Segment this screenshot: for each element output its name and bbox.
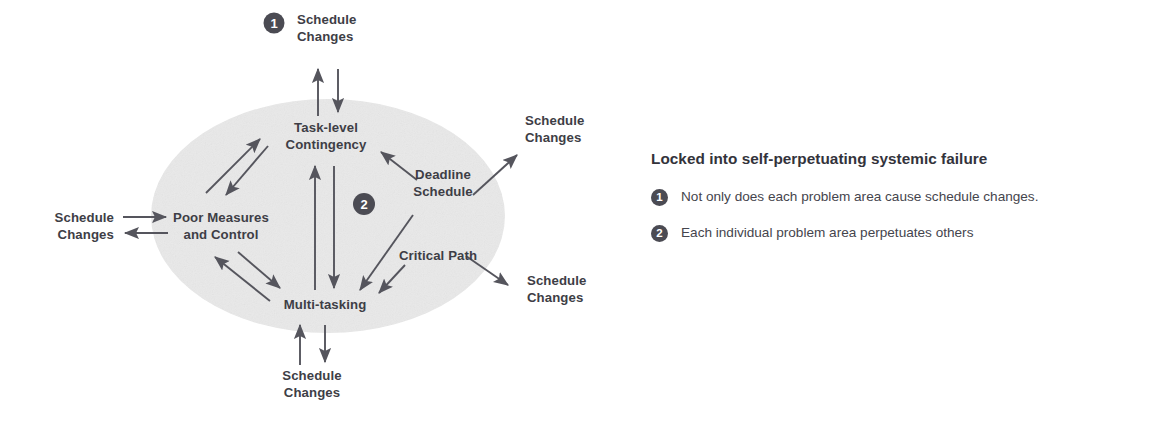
- node-critical-path-line1: Critical Path: [399, 248, 477, 263]
- legend-bullet-2-icon: 2: [651, 225, 668, 242]
- badge-one: 1: [264, 13, 285, 34]
- node-deadline-schedule-line2: Schedule: [413, 184, 472, 199]
- legend-item-1-text: Not only does each problem area cause sc…: [681, 188, 1131, 206]
- schedule-changes-bottom-right: Schedule Changes: [527, 273, 586, 305]
- schedule-changes-top-right: Schedule Changes: [525, 113, 584, 145]
- schedule-changes-bottom-right-line2: Changes: [527, 290, 583, 305]
- schedule-changes-bottom-right-line1: Schedule: [527, 273, 586, 288]
- legend-item-2-text: Each individual problem area perpetuates…: [681, 224, 1131, 242]
- legend-item-1: 1 Not only does each problem area cause …: [651, 188, 1131, 206]
- node-critical-path: Critical Path: [399, 248, 477, 263]
- schedule-changes-bottom-line2: Changes: [284, 385, 340, 400]
- node-task-level-contingency-line2: Contingency: [286, 137, 368, 152]
- badge-two-label: 2: [360, 197, 367, 212]
- legend-bullet-1-icon: 1: [651, 189, 668, 206]
- schedule-changes-left: Schedule Changes: [55, 210, 114, 242]
- node-deadline-schedule-line1: Deadline: [415, 167, 471, 182]
- node-poor-measures-line1: Poor Measures: [173, 210, 269, 225]
- node-multi-tasking: Multi-tasking: [284, 297, 367, 312]
- schedule-changes-left-line2: Changes: [58, 227, 114, 242]
- diagram-page: 1 2 Schedule Changes Schedule Changes Sc…: [0, 0, 1170, 422]
- schedule-changes-top-line1: Schedule: [297, 12, 356, 27]
- schedule-changes-bottom-line1: Schedule: [282, 368, 341, 383]
- schedule-changes-top-right-line2: Changes: [525, 130, 581, 145]
- node-task-level-contingency-line1: Task-level: [294, 120, 358, 135]
- schedule-changes-bottom: Schedule Changes: [282, 368, 341, 400]
- schedule-changes-top: Schedule Changes: [297, 12, 356, 44]
- schedule-changes-left-line1: Schedule: [55, 210, 114, 225]
- schedule-changes-top-right-line1: Schedule: [525, 113, 584, 128]
- badge-one-label: 1: [270, 16, 277, 31]
- schedule-changes-top-line2: Changes: [297, 29, 353, 44]
- node-poor-measures-line2: and Control: [183, 227, 258, 242]
- node-multi-tasking-line1: Multi-tasking: [284, 297, 367, 312]
- legend-item-2: 2 Each individual problem area perpetuat…: [651, 224, 1131, 242]
- legend-panel: Locked into self-perpetuating systemic f…: [651, 150, 1131, 260]
- legend-heading: Locked into self-perpetuating systemic f…: [651, 150, 1131, 168]
- badge-two: 2: [353, 193, 375, 215]
